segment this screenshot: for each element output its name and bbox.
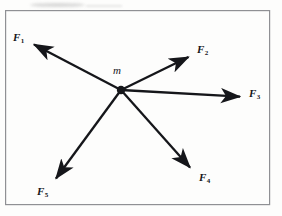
force-label-F5-subscript: 5 — [45, 191, 49, 199]
force-label-F1: F1 — [13, 31, 24, 43]
diagram-canvas — [0, 0, 282, 216]
force-label-F1-subscript: 1 — [21, 37, 25, 45]
force-vector-group — [34, 45, 240, 179]
force-label-F3: F3 — [249, 87, 260, 99]
force-label-F5: F5 — [37, 185, 48, 197]
force-label-F4-symbol: F — [199, 171, 206, 183]
force-label-F1-symbol: F — [13, 31, 20, 43]
point-mass-label: m — [113, 64, 121, 76]
force-diagram-figure: m F1 F2 F3 F4 F5 — [0, 0, 282, 216]
force-label-F4-subscript: 4 — [207, 177, 211, 185]
force-vector-F1 — [34, 45, 121, 91]
force-label-F2-subscript: 2 — [205, 49, 209, 57]
point-mass — [117, 86, 125, 94]
force-vector-F3 — [121, 90, 240, 97]
force-label-F2-symbol: F — [197, 43, 204, 55]
force-vector-F5 — [56, 90, 121, 179]
force-label-F4: F4 — [199, 171, 210, 183]
force-label-F3-subscript: 3 — [257, 93, 261, 101]
force-label-F3-symbol: F — [249, 87, 256, 99]
force-label-F2: F2 — [197, 43, 208, 55]
force-vector-F4 — [121, 90, 190, 168]
force-label-F5-symbol: F — [37, 185, 44, 197]
force-vector-F2 — [121, 57, 189, 90]
